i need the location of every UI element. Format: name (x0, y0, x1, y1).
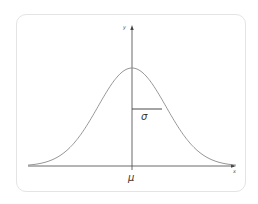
y-axis-label: y (123, 25, 126, 30)
sigma-label: σ (141, 112, 147, 122)
mu-label: μ (128, 173, 134, 183)
x-axis-label: x (233, 169, 236, 174)
y-axis-arrow-icon (130, 25, 133, 30)
